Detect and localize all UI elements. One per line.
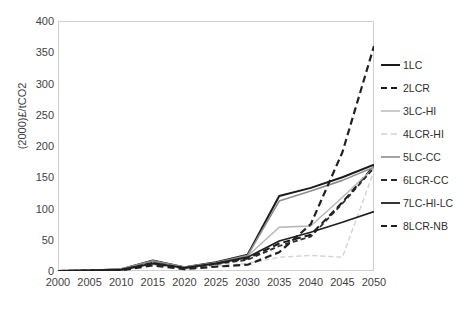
y-tick-label: 400 [20, 16, 54, 26]
y-tick-label: 50 [20, 235, 54, 245]
legend-line-swatch [381, 152, 400, 162]
y-tick-label: 100 [20, 204, 54, 214]
legend-item-label: 1LC [403, 60, 422, 70]
legend-item-label: 8LCR-NB [403, 221, 448, 231]
chart-figure: (2000)£/tCO2 050100150200250300350400 20… [0, 0, 467, 315]
legend-item-6lcr-cc[interactable]: 6LCR-CC [381, 168, 467, 191]
y-tick-label: 250 [20, 110, 54, 120]
y-tick-label: 350 [20, 47, 54, 57]
legend-item-label: 7LC-HI-LC [403, 198, 453, 208]
legend-line-swatch [381, 221, 400, 231]
legend-line-swatch [381, 129, 400, 139]
legend-item-label: 4LCR-HI [403, 129, 444, 139]
y-tick-label: 300 [20, 79, 54, 89]
legend-item-4lcr-hi[interactable]: 4LCR-HI [381, 122, 467, 145]
legend-item-label: 6LCR-CC [403, 175, 449, 185]
y-tick-label: 200 [20, 141, 54, 151]
legend-item-2lcr[interactable]: 2LCR [381, 76, 467, 99]
legend-line-swatch [381, 60, 400, 70]
legend-item-1lc[interactable]: 1LC [381, 53, 467, 76]
legend-item-7lc-hi-lc[interactable]: 7LC-HI-LC [381, 191, 467, 214]
legend-item-8lcr-nb[interactable]: 8LCR-NB [381, 214, 467, 237]
x-tick-label: 2050 [351, 276, 397, 288]
legend-line-swatch [381, 175, 400, 185]
legend-line-swatch [381, 198, 400, 208]
legend-line-swatch [381, 83, 400, 93]
legend-item-3lc-hi[interactable]: 3LC-HI [381, 99, 467, 122]
x-axis-tick-labels: 2000200520102015202020252030203520402045… [0, 276, 467, 298]
series-line-8lcr-nb [58, 46, 374, 271]
y-axis-tick-labels: 050100150200250300350400 [14, 0, 54, 315]
y-tick-label: 150 [20, 172, 54, 182]
chart-legend: 1LC2LCR3LC-HI4LCR-HI5LC-CC6LCR-CC7LC-HI-… [381, 53, 467, 237]
legend-item-label: 5LC-CC [403, 152, 441, 162]
y-tick-label: 0 [20, 266, 54, 276]
legend-item-5lc-cc[interactable]: 5LC-CC [381, 145, 467, 168]
plot-svg [58, 21, 374, 271]
plot-area [58, 21, 374, 271]
series-line-1lc [58, 165, 374, 271]
legend-line-swatch [381, 106, 400, 116]
legend-item-label: 2LCR [403, 83, 430, 93]
legend-item-label: 3LC-HI [403, 106, 436, 116]
